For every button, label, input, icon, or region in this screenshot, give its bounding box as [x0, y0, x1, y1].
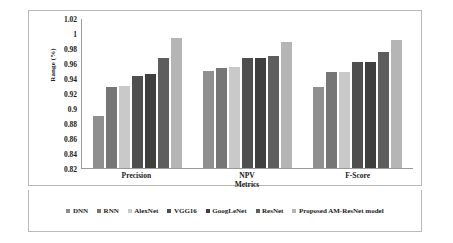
x-axis-title: Metrics — [81, 180, 413, 189]
bar-group — [197, 19, 298, 168]
bar-group — [87, 19, 188, 168]
bar — [145, 74, 156, 169]
legend-swatch — [206, 209, 210, 213]
legend-swatch — [256, 209, 260, 213]
y-axis-tick: 0.92 — [64, 90, 77, 99]
y-axis-tick: 0.84 — [64, 150, 77, 159]
legend-item: VGG16 — [167, 207, 196, 215]
bar-group — [307, 19, 408, 168]
bar — [171, 38, 182, 169]
bar — [339, 72, 350, 168]
legend-swatch — [167, 209, 171, 213]
bar — [242, 58, 253, 168]
bar — [313, 87, 324, 168]
bar — [229, 67, 240, 168]
bar — [132, 76, 143, 168]
bar — [281, 42, 292, 168]
bar-chart-figure: Range (%) 1.0210.980.960.940.920.90.880.… — [28, 10, 422, 186]
bar — [255, 58, 266, 168]
bar-groups-container — [82, 19, 413, 168]
chart-legend: DNNRNNAlexNetVGG16GoogLeNetResNetPropose… — [28, 190, 422, 232]
legend-label: RNN — [104, 207, 119, 215]
y-axis-tick: 0.98 — [64, 45, 77, 54]
bar — [326, 72, 337, 168]
bar — [158, 58, 169, 168]
legend-swatch — [128, 209, 132, 213]
y-axis-tick: 0.9 — [68, 105, 77, 114]
legend-item: ResNet — [256, 207, 284, 215]
y-axis-tick: 0.86 — [64, 135, 77, 144]
bar — [378, 52, 389, 168]
y-axis-tick: 0.96 — [64, 60, 77, 69]
y-axis-tick: 0.94 — [64, 75, 77, 84]
bar — [119, 86, 130, 169]
legend-label: AlexNet — [134, 207, 158, 215]
y-axis-tick: 1 — [73, 30, 77, 39]
x-axis-group-labels: PrecisionNPVF-Score — [81, 171, 413, 180]
x-axis-group-label: F-Score — [302, 171, 413, 180]
bar — [93, 116, 104, 169]
legend-item: AlexNet — [128, 207, 159, 215]
legend-item: Proposed AM-ResNet model — [292, 207, 383, 215]
legend-label: GoogLeNet — [212, 207, 246, 215]
legend-label: DNN — [73, 207, 88, 215]
legend-item: GoogLeNet — [206, 207, 247, 215]
legend-label: ResNet — [262, 207, 283, 215]
x-axis-group-label: NPV — [192, 171, 303, 180]
bar — [203, 71, 214, 169]
y-axis-tick: 0.82 — [64, 165, 77, 174]
bar — [391, 40, 402, 168]
bar — [106, 87, 117, 168]
legend-label: Proposed AM-ResNet model — [299, 207, 384, 215]
y-axis-tick-labels: 1.0210.980.960.940.920.90.880.860.840.82 — [39, 19, 77, 169]
legend-swatch — [66, 209, 70, 213]
bar — [216, 68, 227, 168]
y-axis-tick: 0.88 — [64, 120, 77, 129]
legend-item: DNN — [66, 207, 88, 215]
plot-area — [81, 19, 413, 169]
bar — [352, 62, 363, 168]
bar — [365, 62, 376, 169]
legend-label: VGG16 — [174, 207, 197, 215]
legend-item: RNN — [97, 207, 119, 215]
legend-swatch — [97, 209, 101, 213]
legend-swatch — [292, 209, 296, 213]
x-axis-group-label: Precision — [81, 171, 192, 180]
y-axis-tick: 1.02 — [64, 15, 77, 24]
bar — [268, 56, 279, 168]
